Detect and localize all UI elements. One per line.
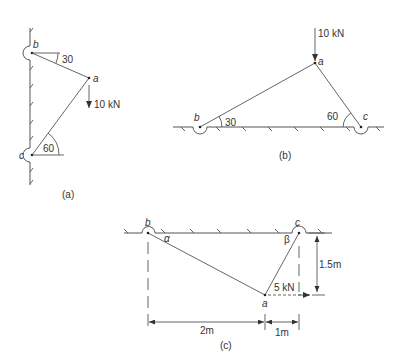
dim-label-1m: 1m [275,327,289,338]
member-ca [32,78,89,155]
node-label-a: a [93,73,99,84]
wall-support [23,28,33,185]
ground-support [173,127,384,134]
dim-label-1-5m: 1.5m [319,259,341,270]
joint-a [88,77,91,80]
angle-label-beta: β [284,234,290,245]
node-label-a: a [318,56,324,67]
figure-a: 30 60 10 kN b a c (a) [19,28,120,200]
ceiling-support [124,226,332,233]
node-label-c: c [363,111,368,122]
node-label-b: b [194,112,200,123]
caption-b: (b) [279,150,291,161]
figure-b: 30 60 10 kN b a c (b) [173,28,384,161]
angle-label-30: 30 [225,117,237,128]
caption-a: (a) [62,189,74,200]
load-label: 5 kN [274,282,295,293]
angle-label-60: 60 [43,143,55,154]
node-label-c: c [19,150,24,161]
joint-b [199,126,202,129]
joint-b [147,232,150,235]
caption-c: (c) [220,340,232,351]
member-ba [32,53,89,78]
node-label-c: c [295,217,300,228]
pin-jointed-frames-diagram: 30 60 10 kN b a c (a) [0,0,407,364]
load-label: 10 kN [318,28,344,39]
member-ba [200,63,315,127]
figure-c: 5 kN 1.5m 2m 1m α β b a c (c) [124,217,341,351]
node-label-a: a [262,298,268,309]
node-label-b: b [33,39,39,50]
angle-label-60: 60 [327,111,339,122]
angle-label-30: 30 [62,54,74,65]
node-label-b: b [145,217,151,228]
joint-a [314,62,317,65]
angle-label-alpha: α [164,233,170,244]
joint-c [360,126,363,129]
dim-label-2m: 2m [200,325,214,336]
load-label: 10 kN [94,99,120,110]
joint-c [298,232,301,235]
joint-a [264,294,267,297]
